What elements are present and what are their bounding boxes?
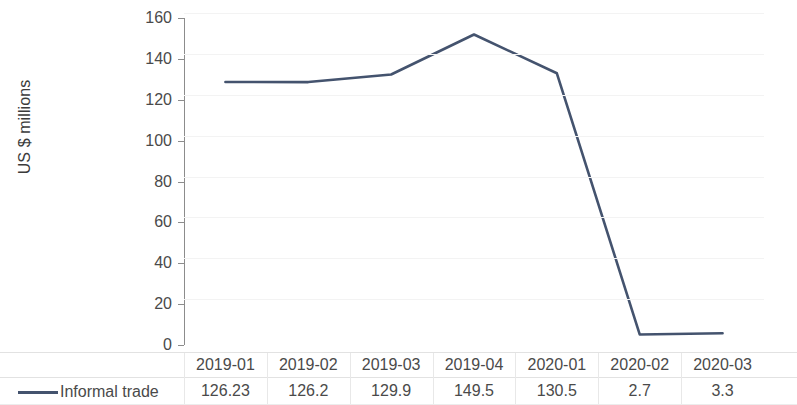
data-table: Informal trade 2019-01126.232019-02126.2… [0, 352, 797, 405]
y-tick-mark [178, 141, 184, 142]
table-header-divider [0, 377, 797, 378]
y-tick-label: 40 [126, 255, 172, 271]
y-tick-mark [178, 263, 184, 264]
line-swatch-icon [18, 391, 58, 394]
table-header-cell: 2019-03 [350, 356, 433, 374]
table-value-cell: 3.3 [681, 382, 764, 400]
series-line-informal-trade [225, 34, 722, 334]
y-tick-mark [178, 182, 184, 183]
table-header-cell: 2019-04 [433, 356, 516, 374]
y-tick-mark [178, 18, 184, 19]
y-tick-mark [178, 304, 184, 305]
y-tick-label: 120 [126, 92, 172, 108]
table-value-cell: 126.2 [267, 382, 350, 400]
gridline [184, 177, 764, 178]
y-tick-label: 100 [126, 133, 172, 149]
y-tick-label: 140 [126, 51, 172, 67]
table-column-divider [184, 353, 185, 404]
table-value-cell: 126.23 [184, 382, 267, 400]
gridline [184, 136, 764, 137]
y-tick-mark [178, 100, 184, 101]
plot-area [184, 13, 764, 351]
table-value-cell: 129.9 [350, 382, 433, 400]
table-value-cell: 2.7 [598, 382, 681, 400]
table-column-divider [515, 353, 516, 404]
y-tick-mark [178, 222, 184, 223]
table-column-divider [681, 353, 682, 404]
table-header-cell: 2019-02 [267, 356, 350, 374]
table-header-cell: 2020-01 [515, 356, 598, 374]
y-tick-label: 20 [126, 296, 172, 312]
table-header-cell: 2020-03 [681, 356, 764, 374]
gridline [184, 54, 764, 55]
line-chart: US $ millions Informal trade 2019-01126.… [0, 0, 797, 405]
table-top-divider [0, 352, 797, 353]
y-tick-label: 80 [126, 174, 172, 190]
y-tick-mark [178, 59, 184, 60]
legend-item-informal-trade: Informal trade [18, 382, 159, 402]
table-column-divider [267, 353, 268, 404]
table-column-divider [598, 353, 599, 404]
table-value-cell: 149.5 [433, 382, 516, 400]
table-header-cell: 2020-02 [598, 356, 681, 374]
table-column-divider [350, 353, 351, 404]
y-tick-mark [178, 345, 184, 346]
table-column-divider [433, 353, 434, 404]
y-axis-title: US $ millions [16, 57, 34, 197]
series-line-group [184, 13, 764, 351]
gridline [184, 217, 764, 218]
y-tick-label: 160 [126, 10, 172, 26]
gridline [184, 299, 764, 300]
gridline [184, 13, 764, 14]
gridline [184, 95, 764, 96]
y-tick-label: 0 [126, 337, 172, 353]
y-tick-label: 60 [126, 214, 172, 230]
table-value-cell: 130.5 [515, 382, 598, 400]
legend-label: Informal trade [60, 383, 159, 401]
table-header-cell: 2019-01 [184, 356, 267, 374]
gridline [184, 258, 764, 259]
